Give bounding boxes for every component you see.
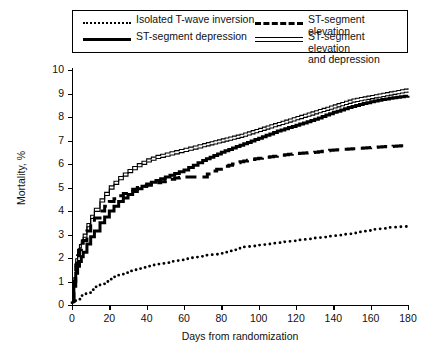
x-tick-label-180: 180	[393, 312, 423, 324]
curve-st-segment-depression	[72, 96, 408, 302]
y-tick-label-7: 7	[44, 134, 64, 146]
dashed-line-swatch	[255, 17, 303, 29]
x-tick-40	[147, 305, 148, 310]
y-axis-title: Mortality, %	[15, 133, 27, 223]
x-tick-80	[221, 305, 222, 310]
legend-box: Isolated T-wave inversion ST-segment ele…	[72, 10, 408, 53]
x-tick-label-80: 80	[206, 312, 236, 324]
y-tick-label-1: 1	[44, 275, 64, 287]
solid-line-swatch	[83, 34, 131, 46]
legend-entry-st-segment-depression: ST-segment depression	[83, 34, 247, 46]
x-tick-label-100: 100	[244, 312, 274, 324]
legend-label-3: ST-segment elevation and depression	[303, 31, 407, 66]
x-axis-title: Days from randomization	[72, 330, 408, 342]
x-tick-label-0: 0	[57, 312, 87, 324]
x-tick-label-120: 120	[281, 312, 311, 324]
y-tick-label-4: 4	[44, 204, 64, 216]
y-tick-label-10: 10	[44, 63, 64, 75]
double-line-swatch	[255, 34, 303, 46]
legend-entry-st-segment-elevation-and-depression: ST-segment elevation and depression	[255, 34, 407, 66]
x-axis-line	[71, 305, 409, 306]
y-tick-label-3: 3	[44, 228, 64, 240]
curve-st-segment-elevation	[72, 145, 408, 301]
x-tick-0	[72, 305, 73, 310]
legend-label-2: ST-segment depression	[131, 31, 247, 43]
y-tick-label-9: 9	[44, 87, 64, 99]
x-tick-160	[371, 305, 372, 310]
y-tick-label-0: 0	[44, 298, 64, 310]
legend-entry-isolated-t-wave-inversion: Isolated T-wave inversion	[83, 17, 254, 29]
x-tick-label-20: 20	[94, 312, 124, 324]
x-tick-60	[184, 305, 185, 310]
y-tick-label-8: 8	[44, 110, 64, 122]
x-tick-label-160: 160	[356, 312, 386, 324]
legend-label-0: Isolated T-wave inversion	[131, 14, 254, 26]
x-tick-140	[333, 305, 334, 310]
x-tick-label-60: 60	[169, 312, 199, 324]
dotted-line-swatch	[83, 17, 131, 29]
figure-root: Isolated T-wave inversion ST-segment ele…	[0, 0, 440, 356]
y-tick-label-5: 5	[44, 181, 64, 193]
plot-area	[72, 70, 408, 305]
x-tick-100	[259, 305, 260, 310]
curve-isolated-t-wave-inversion	[72, 226, 408, 302]
x-tick-120	[296, 305, 297, 310]
x-tick-180	[408, 305, 409, 310]
x-tick-20	[109, 305, 110, 310]
y-tick-label-2: 2	[44, 251, 64, 263]
y-tick-label-6: 6	[44, 157, 64, 169]
x-tick-label-140: 140	[318, 312, 348, 324]
curves-svg	[72, 70, 408, 305]
x-tick-label-40: 40	[132, 312, 162, 324]
